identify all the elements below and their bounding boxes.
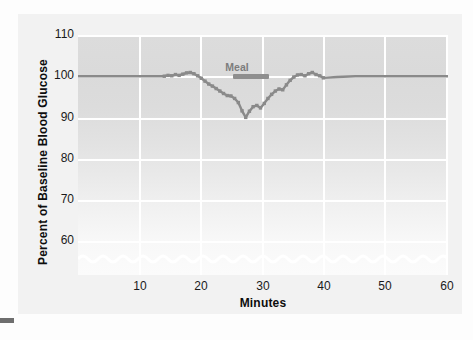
x-tick-10: 10 — [120, 279, 160, 293]
axis-break-squiggle — [78, 249, 448, 269]
y-tick-110: 110 — [30, 27, 74, 41]
x-tick-40: 40 — [304, 279, 344, 293]
corner-registration-mark — [0, 318, 14, 323]
y-axis-title: Percent of Baseline Blood Glucose — [36, 47, 50, 277]
x-axis-title: Minutes — [78, 296, 448, 310]
x-tick-50: 50 — [365, 279, 405, 293]
x-tick-60: 60 — [427, 279, 467, 293]
chart-figure: 110 100 90 80 70 60 Meal 10 20 — [0, 0, 473, 340]
plot-area: Meal — [78, 35, 448, 275]
meal-annotation-label: Meal — [207, 61, 267, 73]
x-tick-30: 30 — [243, 279, 283, 293]
meal-annotation-bar — [233, 74, 269, 79]
x-tick-20: 20 — [181, 279, 221, 293]
